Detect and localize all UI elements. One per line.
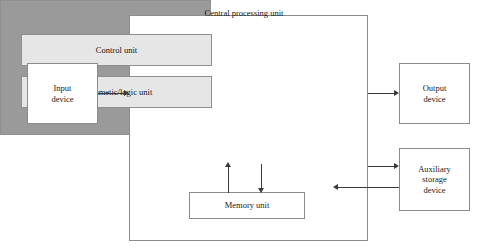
output-device-label-line-1: Output (423, 83, 447, 93)
connector-input-to-system (98, 93, 125, 94)
arrowhead-cpu-to-memory (258, 188, 264, 193)
input-device-label: Input device (51, 83, 73, 103)
connector-aux-to-system (337, 187, 399, 188)
aux-label-line-2: storage (418, 174, 451, 184)
input-device-label-line-1: Input (51, 83, 73, 93)
control-unit-box: Control unit (21, 34, 212, 66)
aux-label-line-1: Auxiliary (418, 164, 451, 174)
arrowhead-aux-to-system (333, 184, 338, 190)
computer-architecture-diagram: Central processing unit Control unit Ari… (0, 0, 488, 252)
memory-unit-box: Memory unit (189, 192, 305, 219)
connector-system-to-aux (368, 166, 395, 167)
control-unit-label: Control unit (96, 45, 137, 55)
arrowhead-system-to-aux (394, 163, 399, 169)
output-device-box: Output device (399, 63, 470, 124)
output-device-label-line-2: device (423, 94, 447, 104)
connector-system-to-output (368, 93, 395, 94)
connector-memory-to-cpu (228, 166, 229, 193)
output-device-label: Output device (423, 83, 447, 103)
input-device-box: Input device (27, 63, 98, 124)
auxiliary-storage-device-box: Auxiliary storage device (399, 148, 470, 211)
connector-cpu-to-memory (261, 164, 262, 189)
input-device-label-line-2: device (51, 94, 73, 104)
auxiliary-storage-device-label: Auxiliary storage device (418, 164, 451, 194)
arrowhead-system-to-output (394, 90, 399, 96)
aux-label-line-3: device (418, 185, 451, 195)
arrowhead-input-to-system (124, 90, 129, 96)
memory-unit-label: Memory unit (225, 200, 270, 210)
arrowhead-memory-to-cpu (225, 162, 231, 167)
cpu-title-label: Central processing unit (0, 8, 488, 18)
